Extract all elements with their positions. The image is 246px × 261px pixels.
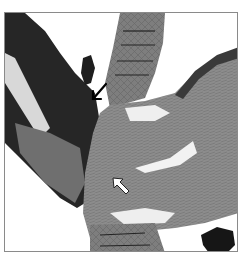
black-arrow-annotation [93, 84, 106, 99]
lower-column [90, 223, 165, 252]
tissue-fragment-top [81, 55, 95, 85]
tissue-fragment-bottom-right [201, 227, 235, 252]
micrograph-frame [4, 12, 238, 252]
histology-micrograph [5, 13, 238, 252]
